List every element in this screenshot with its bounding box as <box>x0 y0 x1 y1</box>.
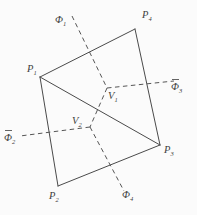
label-p1: P1 <box>26 63 37 76</box>
axis-phi4-ray <box>90 127 124 191</box>
diagram-canvas: P1 P2 P3 P4 V1 V2 Φ1 Φ2 Φ3 Φ4 <box>0 0 197 215</box>
axis-phi2-ray <box>20 127 90 136</box>
label-phi1: Φ1 <box>55 14 66 27</box>
quadrilateral-diagram: P1 P2 P3 P4 V1 V2 Φ1 Φ2 Φ3 Φ4 <box>0 0 197 215</box>
label-phi2: Φ2 <box>4 132 16 145</box>
label-phi4: Φ4 <box>122 189 134 202</box>
edge-p3-p2 <box>58 145 160 186</box>
edge-p4-p3 <box>135 29 160 145</box>
axis-phi3-ray <box>107 81 174 88</box>
diagonal-p1-p3 <box>40 77 160 145</box>
label-v-lower: V2 <box>72 115 82 128</box>
axis-v1-v2-connector <box>90 88 107 127</box>
label-p3: P3 <box>163 144 174 157</box>
edge-p1-p4 <box>40 29 135 77</box>
label-p4: P4 <box>141 9 152 22</box>
label-v-upper: V1 <box>108 90 118 103</box>
label-phi3: Φ3 <box>171 81 183 94</box>
label-p2: P2 <box>48 190 59 203</box>
axis-phi1-ray <box>72 16 107 88</box>
